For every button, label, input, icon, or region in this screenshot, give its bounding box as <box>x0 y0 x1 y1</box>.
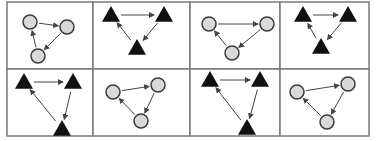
circle-node-icon <box>106 85 120 99</box>
circle-node-icon <box>320 115 334 129</box>
circle-node-icon <box>260 17 274 31</box>
grid-cell-7 <box>190 69 280 136</box>
motif-grid-diagram <box>0 0 376 141</box>
circle-node-icon <box>23 15 37 29</box>
circle-node-icon <box>151 78 165 92</box>
circle-node-icon <box>134 114 148 128</box>
grid-cell-5 <box>7 69 93 136</box>
circle-node-icon <box>60 20 74 34</box>
grid-cell-4 <box>280 2 369 69</box>
circle-node-icon <box>290 85 304 99</box>
circle-node-icon <box>225 46 239 60</box>
grid-cell-1 <box>7 2 93 69</box>
circle-node-icon <box>202 17 216 31</box>
circle-node-icon <box>31 49 45 63</box>
circle-node-icon <box>341 77 355 91</box>
